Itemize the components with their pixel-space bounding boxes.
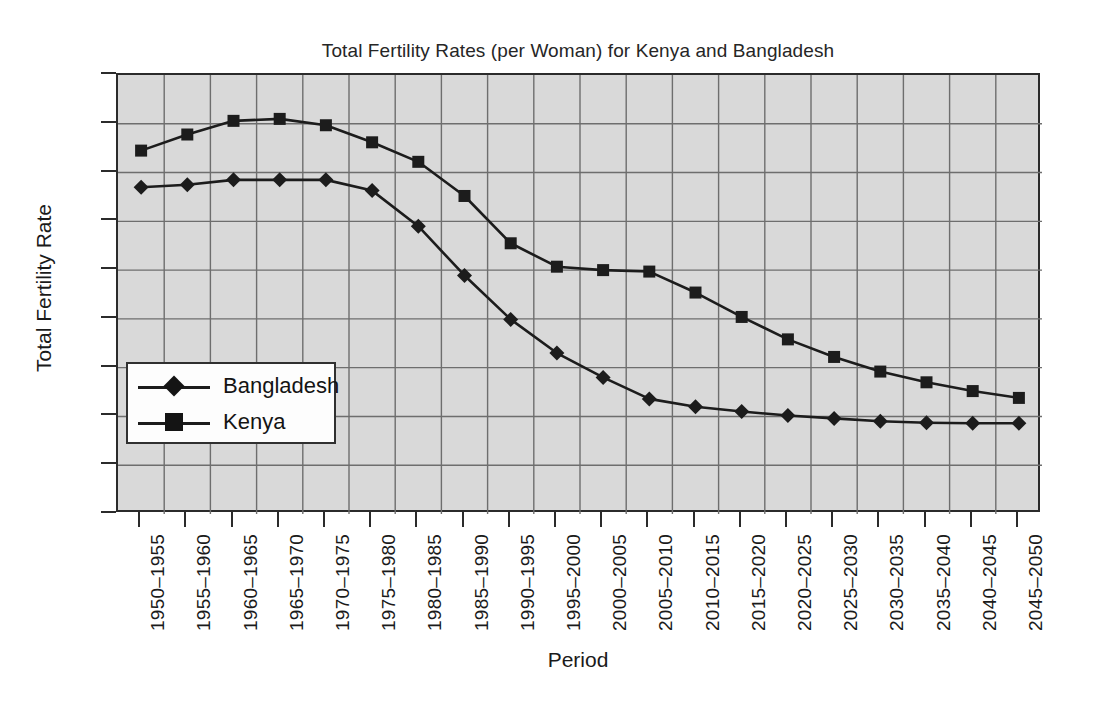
diamond-marker-icon	[272, 172, 287, 187]
square-marker-icon	[165, 413, 183, 431]
x-tick-label: 2020–2025	[794, 534, 816, 631]
x-tick-label: 1950–1955	[147, 534, 169, 631]
x-tick-mark	[693, 512, 695, 527]
x-tick-label: 1990–1995	[517, 534, 539, 631]
square-marker-icon	[782, 333, 794, 345]
x-tick-label: 2010–2015	[702, 534, 724, 631]
plot-area: Bangladesh Kenya	[116, 73, 1040, 512]
x-tick-label: 2035–2040	[933, 534, 955, 631]
diamond-marker-icon	[965, 416, 980, 431]
square-marker-icon	[274, 113, 286, 125]
x-tick-label: 2005–2010	[655, 534, 677, 631]
x-tick-mark	[415, 512, 417, 527]
square-marker-icon	[412, 156, 424, 168]
y-tick-mark	[101, 365, 116, 367]
square-marker-icon	[690, 287, 702, 299]
x-tick-mark	[277, 512, 279, 527]
x-tick-label: 1960–1965	[240, 534, 262, 631]
legend-label: Kenya	[223, 409, 285, 435]
data-series-layer	[118, 75, 1042, 514]
square-marker-icon	[459, 190, 471, 202]
x-tick-label: 2015–2020	[748, 534, 770, 631]
y-axis-label: Total Fertility Rate	[32, 168, 56, 408]
y-tick-mark	[101, 218, 116, 220]
diamond-marker-icon	[596, 370, 611, 385]
legend: Bangladesh Kenya	[126, 362, 336, 444]
diamond-marker-icon	[226, 172, 241, 187]
legend-item-kenya: Kenya	[128, 406, 338, 440]
x-tick-label: 2040–2045	[979, 534, 1001, 631]
square-marker-icon	[874, 366, 886, 378]
x-tick-mark	[646, 512, 648, 527]
square-marker-icon	[921, 376, 933, 388]
x-tick-mark	[184, 512, 186, 527]
x-tick-mark	[924, 512, 926, 527]
square-marker-icon	[1013, 392, 1025, 404]
x-tick-label: 1980–1985	[424, 534, 446, 631]
legend-item-bangladesh: Bangladesh	[128, 370, 338, 404]
y-tick-mark	[101, 121, 116, 123]
square-marker-icon	[320, 119, 332, 131]
x-tick-mark	[138, 512, 140, 527]
diamond-marker-icon	[919, 415, 934, 430]
square-marker-icon	[135, 145, 147, 157]
x-tick-label: 1985–1990	[471, 534, 493, 631]
y-tick-mark	[101, 170, 116, 172]
diamond-marker-icon	[827, 411, 842, 426]
x-tick-mark	[600, 512, 602, 527]
square-marker-icon	[736, 311, 748, 323]
x-tick-mark	[785, 512, 787, 527]
diamond-marker-icon	[318, 172, 333, 187]
x-tick-label: 2045–2050	[1025, 534, 1047, 631]
x-tick-mark	[554, 512, 556, 527]
y-tick-mark	[101, 316, 116, 318]
diamond-marker-icon	[1011, 416, 1026, 431]
x-tick-label: 1995–2000	[563, 534, 585, 631]
y-tick-mark	[101, 462, 116, 464]
x-tick-mark	[369, 512, 371, 527]
diamond-marker-icon	[780, 408, 795, 423]
y-tick-mark	[101, 267, 116, 269]
x-tick-label: 1955–1960	[193, 534, 215, 631]
x-tick-label: 1970–1975	[332, 534, 354, 631]
x-tick-mark	[231, 512, 233, 527]
y-tick-mark	[101, 511, 116, 513]
x-tick-mark	[462, 512, 464, 527]
x-tick-label: 2000–2005	[609, 534, 631, 631]
x-tick-label: 2025–2030	[840, 534, 862, 631]
square-marker-icon	[505, 237, 517, 249]
x-tick-mark	[877, 512, 879, 527]
x-tick-mark	[508, 512, 510, 527]
x-tick-label: 1965–1970	[286, 534, 308, 631]
x-tick-mark	[831, 512, 833, 527]
diamond-marker-icon	[180, 177, 195, 192]
square-marker-icon	[551, 261, 563, 273]
x-tick-label: 1975–1980	[378, 534, 400, 631]
diamond-marker-icon	[734, 404, 749, 419]
square-marker-icon	[597, 264, 609, 276]
series-line-kenya	[141, 119, 1019, 398]
y-tick-mark	[101, 72, 116, 74]
square-marker-icon	[228, 115, 240, 127]
square-marker-icon	[643, 266, 655, 278]
legend-label: Bangladesh	[223, 373, 339, 399]
square-marker-icon	[181, 129, 193, 141]
square-marker-icon	[967, 385, 979, 397]
x-tick-mark	[1016, 512, 1018, 527]
x-tick-mark	[323, 512, 325, 527]
diamond-marker-icon	[134, 180, 149, 195]
diamond-marker-icon	[688, 399, 703, 414]
y-tick-mark	[101, 413, 116, 415]
diamond-marker-icon	[642, 391, 657, 406]
chart-figure: Total Fertility Rates (per Woman) for Ke…	[0, 0, 1110, 712]
x-tick-label: 2030–2035	[886, 534, 908, 631]
x-tick-mark	[970, 512, 972, 527]
diamond-marker-icon	[164, 376, 185, 397]
square-marker-icon	[828, 351, 840, 363]
diamond-marker-icon	[873, 414, 888, 429]
chart-title: Total Fertility Rates (per Woman) for Ke…	[116, 40, 1040, 62]
square-marker-icon	[366, 136, 378, 148]
x-tick-mark	[739, 512, 741, 527]
x-axis-label: Period	[116, 648, 1040, 672]
